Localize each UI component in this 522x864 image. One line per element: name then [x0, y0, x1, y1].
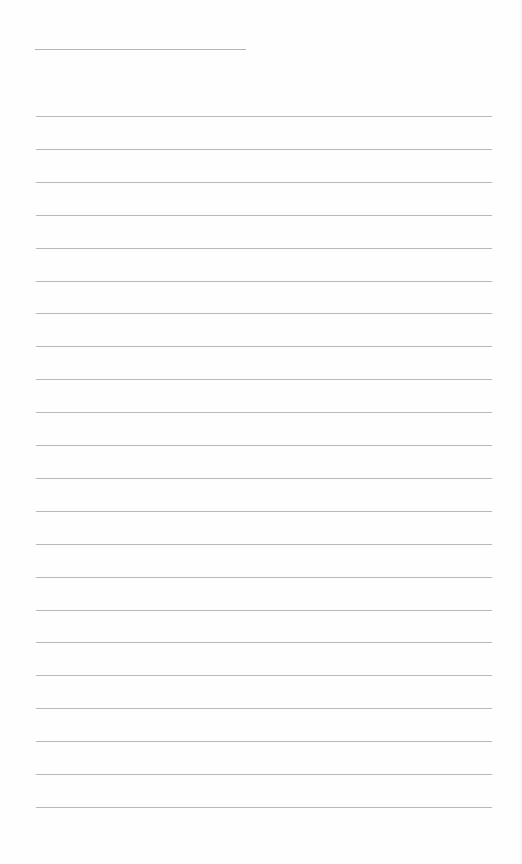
- ruled-line: [36, 675, 492, 676]
- ruled-line: [36, 445, 492, 446]
- title-underline: [35, 49, 246, 50]
- ruled-line: [36, 741, 492, 742]
- ruled-line: [36, 182, 492, 183]
- ruled-line: [36, 149, 492, 150]
- ruled-line: [36, 478, 492, 479]
- ruled-line: [36, 807, 492, 808]
- ruled-line: [36, 412, 492, 413]
- ruled-line: [36, 544, 492, 545]
- ruled-line: [36, 281, 492, 282]
- ruled-line: [36, 511, 492, 512]
- ruled-line: [36, 346, 492, 347]
- ruled-line: [36, 642, 492, 643]
- ruled-line: [36, 379, 492, 380]
- ruled-line: [36, 577, 492, 578]
- ruled-line: [36, 774, 492, 775]
- ruled-line: [36, 248, 492, 249]
- ruled-line: [36, 215, 492, 216]
- ruled-line: [36, 708, 492, 709]
- ruled-line: [36, 313, 492, 314]
- ruled-line: [36, 610, 492, 611]
- lined-page: [0, 0, 522, 864]
- ruled-line: [36, 116, 492, 117]
